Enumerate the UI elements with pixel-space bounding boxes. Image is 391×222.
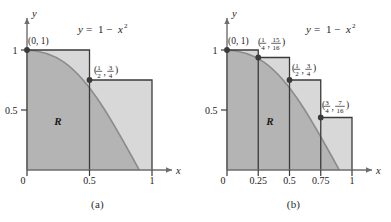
x-tick-label-a-0: 0 [21, 175, 26, 186]
frac-den-ax-1: 2 [97, 72, 101, 80]
y-tick-label-a-05: 0.5 [5, 105, 18, 116]
x-tick-label-b-4: 1 [350, 175, 355, 186]
eq-lhs-b: y [305, 23, 311, 35]
point-label-b-3: ( 3 4 , 7 16 ) [322, 99, 349, 115]
eq-exponent-b: 2 [352, 22, 356, 30]
eq-var-b: x [345, 23, 351, 35]
eq-one-b: 1 [326, 23, 332, 35]
point-label-b-0: (0, 1) [228, 36, 249, 47]
x-axis-label-a: x [175, 165, 181, 176]
x-tick-label-b-2: 0.5 [283, 175, 296, 186]
eq-minus-a: − [106, 23, 112, 35]
frac-den-by-2: 4 [307, 70, 311, 78]
frac-den-ay-1: 4 [109, 72, 113, 80]
eq-one-a: 1 [98, 23, 104, 35]
point-label-a-1: ( 1 2 , 3 4 ) [94, 64, 118, 80]
panel-a-plot: x y 0 0.5 1 0.5 1 R (0, 1) ( 1 2 , 3 4 [0, 0, 195, 200]
point-b-1 [255, 55, 261, 61]
frac-num-bx-1: 1 [261, 36, 265, 44]
y-tick-label-b-05: 0.5 [205, 105, 218, 116]
riemann-sum-figure: x y 0 0.5 1 0.5 1 R (0, 1) ( 1 2 , 3 4 [0, 0, 391, 222]
eq-equals-b: = [314, 23, 320, 35]
paren-close-b-1: ) [282, 37, 285, 48]
y-axis-label-a: y [31, 8, 37, 19]
comma-a-1: , [104, 67, 106, 77]
y-axis-arrow-b [224, 18, 229, 24]
eq-equals-a: = [86, 23, 92, 35]
point-label-a-0: (0, 1) [28, 36, 49, 47]
frac-num-by-2: 3 [307, 62, 311, 70]
eq-minus-b: − [334, 23, 340, 35]
panel-b-caption: (b) [196, 198, 391, 210]
point-b-2 [287, 77, 293, 83]
frac-num-ax-1: 1 [97, 64, 101, 72]
point-label-b-2: ( 1 2 , 3 4 ) [292, 62, 316, 78]
region-label-b: R [265, 115, 273, 127]
frac-den-bx-1: 4 [261, 44, 265, 52]
paren-close-a-1: ) [115, 65, 118, 76]
point-a-0 [24, 47, 30, 53]
x-tick-label-a-2: 1 [150, 175, 155, 186]
equation-label-b: y = 1 − x 2 [305, 22, 356, 35]
frac-num-ay-1: 3 [109, 64, 113, 72]
eq-exponent-a: 2 [124, 22, 128, 30]
y-axis-label-b: y [231, 8, 237, 19]
frac-num-bx-2: 1 [295, 62, 299, 70]
paren-close-b-3: ) [346, 100, 349, 111]
x-axis-arrow-a [166, 167, 172, 172]
eq-var-a: x [117, 23, 123, 35]
point-b-3 [318, 115, 324, 121]
y-tick-label-a-1: 1 [13, 45, 18, 56]
x-tick-label-b-0: 0 [221, 175, 226, 186]
region-label-a: R [53, 115, 61, 127]
panel-a: x y 0 0.5 1 0.5 1 R (0, 1) ( 1 2 , 3 4 [0, 0, 195, 222]
frac-den-by-3: 16 [337, 107, 345, 115]
point-b-0 [224, 47, 230, 53]
eq-lhs-a: y [77, 23, 83, 35]
x-axis-arrow-b [366, 167, 372, 172]
panel-b: x y 0 0.25 0.5 0.75 1 0.5 1 R (0, 1) ( 1… [196, 0, 391, 222]
y-axis-arrow-a [24, 18, 29, 24]
frac-num-bx-3: 3 [325, 99, 329, 107]
x-tick-label-a-1: 0.5 [83, 175, 96, 186]
comma-b-1: , [268, 39, 270, 49]
frac-num-by-3: 7 [338, 99, 342, 107]
frac-den-bx-2: 2 [295, 70, 299, 78]
panel-a-caption: (a) [0, 198, 195, 210]
point-a-1 [87, 77, 93, 83]
panel-b-plot: x y 0 0.25 0.5 0.75 1 0.5 1 R (0, 1) ( 1… [196, 0, 391, 200]
point-label-b-1: ( 1 4 , 15 16 ) [258, 36, 285, 52]
equation-label-a: y = 1 − x 2 [77, 22, 128, 35]
paren-close-b-2: ) [313, 63, 316, 74]
x-tick-label-b-3: 0.75 [312, 175, 330, 186]
comma-b-2: , [302, 65, 304, 75]
frac-num-by-1: 15 [273, 36, 281, 44]
y-tick-label-b-1: 1 [213, 45, 218, 56]
frac-den-bx-3: 4 [325, 107, 329, 115]
frac-den-by-1: 16 [273, 44, 281, 52]
x-tick-label-b-1: 0.25 [250, 175, 268, 186]
comma-b-3: , [332, 102, 334, 112]
x-axis-label-b: x [375, 165, 381, 176]
